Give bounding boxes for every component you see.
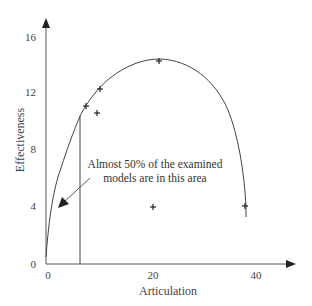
annotation-arrow-shaft (64, 178, 90, 202)
annotation-line-1: Almost 50% of the examined (88, 158, 223, 170)
ytick-12: 12 (25, 86, 36, 98)
annotation-line-2: models are in this area (103, 172, 206, 184)
data-point (242, 203, 248, 209)
y-axis-arrow-icon (42, 18, 50, 28)
effectiveness-vs-articulation-chart: 16 12 8 4 0 0 20 40 Articulation Effecti… (0, 0, 312, 306)
data-point (97, 86, 103, 92)
ytick-4: 4 (31, 200, 37, 212)
xtick-20: 20 (148, 269, 160, 281)
xtick-0: 0 (45, 269, 51, 281)
data-points (83, 58, 248, 210)
ytick-16: 16 (25, 31, 37, 43)
y-axis-label: Effectiveness (13, 107, 27, 172)
x-axis-arrow-icon (286, 260, 296, 268)
xtick-40: 40 (251, 269, 263, 281)
data-point (150, 204, 156, 210)
ytick-0: 0 (31, 258, 37, 270)
ytick-8: 8 (31, 143, 37, 155)
x-axis-label: Articulation (139, 284, 197, 298)
data-point (94, 110, 100, 116)
